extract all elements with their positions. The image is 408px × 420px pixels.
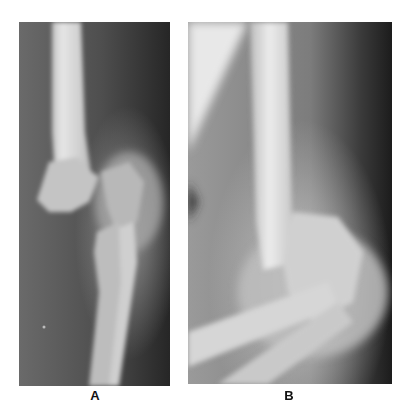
xray-image-b — [188, 22, 392, 384]
artifact-dot — [43, 326, 46, 329]
xray-panel-a — [19, 22, 170, 386]
xray-panel-b — [188, 22, 392, 384]
panel-label-a: A — [85, 388, 105, 403]
panel-label-b: B — [279, 388, 299, 403]
xray-image-a — [19, 22, 170, 386]
